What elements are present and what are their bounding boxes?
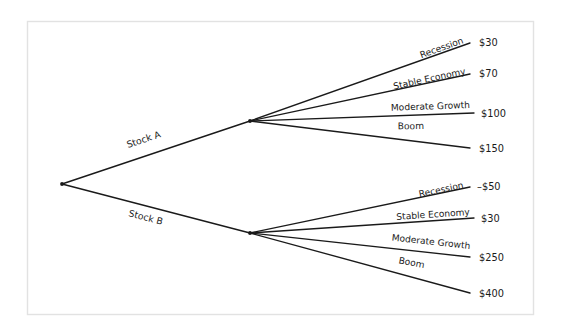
payoff-stock-b-recession: –$50 — [477, 181, 501, 192]
payoff-stock-a-recession: $30 — [479, 37, 498, 48]
diagram-frame — [28, 22, 534, 315]
payoff-stock-b-stable-economy: $30 — [481, 213, 500, 224]
decision-tree-diagram: Stock A Stock B Recession Stable Economy… — [0, 0, 561, 336]
payoff-stock-a-boom: $150 — [479, 143, 504, 154]
payoff-stock-a-moderate-growth: $100 — [481, 108, 506, 119]
payoff-stock-b-moderate-growth: $250 — [479, 252, 504, 263]
payoff-stock-b-boom: $400 — [479, 288, 504, 299]
decision-tree-canvas: Stock A Stock B Recession Stable Economy… — [0, 0, 561, 336]
payoff-stock-a-stable-economy: $70 — [479, 68, 498, 79]
branch-label-stock-a-boom: Boom — [398, 121, 424, 131]
